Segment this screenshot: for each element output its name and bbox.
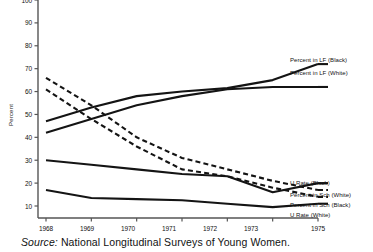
series-line	[46, 190, 318, 207]
legend-u-white: U Rate (White)	[290, 212, 330, 218]
legend-sch-white: Percent in Sch (White)	[290, 192, 351, 198]
source-text: National Longitudinal Surveys of Young W…	[61, 236, 290, 248]
series-line	[46, 160, 318, 192]
source-prefix: Source:	[21, 236, 58, 248]
source-caption: Source: National Longitudinal Surveys of…	[21, 236, 290, 248]
legend-lf-white: Percent in LF (White)	[290, 70, 348, 76]
legend-u-black: U Rate (Black)	[290, 180, 330, 186]
legend-lf-black: Percent in LF (Black)	[290, 57, 347, 63]
legend-sch-black: Percent in Sch (Black)	[290, 202, 350, 208]
chart-figure: Percent 100 90 80 70 60 50 40 30 20 10 1…	[0, 0, 373, 252]
series-line	[46, 64, 318, 121]
